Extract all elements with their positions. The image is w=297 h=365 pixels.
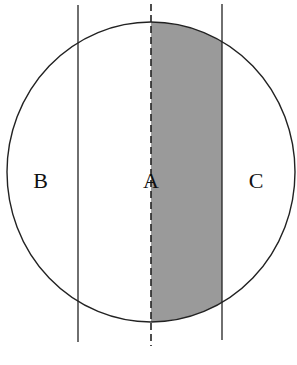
region-label-b: B (33, 168, 48, 193)
shaded-region (151, 0, 222, 365)
diagram-canvas: B A C (0, 0, 297, 365)
region-label-a: A (143, 168, 159, 193)
diagram-svg: B A C (0, 0, 297, 365)
region-label-c: C (249, 168, 264, 193)
